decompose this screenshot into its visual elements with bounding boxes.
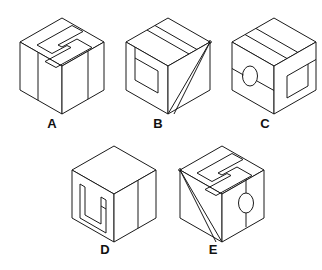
cube-d[interactable] — [72, 146, 156, 242]
cube-b[interactable] — [126, 18, 211, 114]
cube-e[interactable] — [179, 146, 264, 242]
figure-canvas: A B — [0, 0, 322, 270]
cube-e-label: E — [209, 242, 218, 257]
cube-b-label: B — [153, 116, 162, 131]
cube-c[interactable] — [232, 18, 316, 114]
cube-c-label: C — [260, 116, 270, 131]
cube-set-illustration: A B — [0, 0, 322, 270]
cube-a-label: A — [47, 116, 57, 131]
cube-d-label: D — [100, 242, 109, 257]
cube-a[interactable] — [20, 18, 104, 114]
